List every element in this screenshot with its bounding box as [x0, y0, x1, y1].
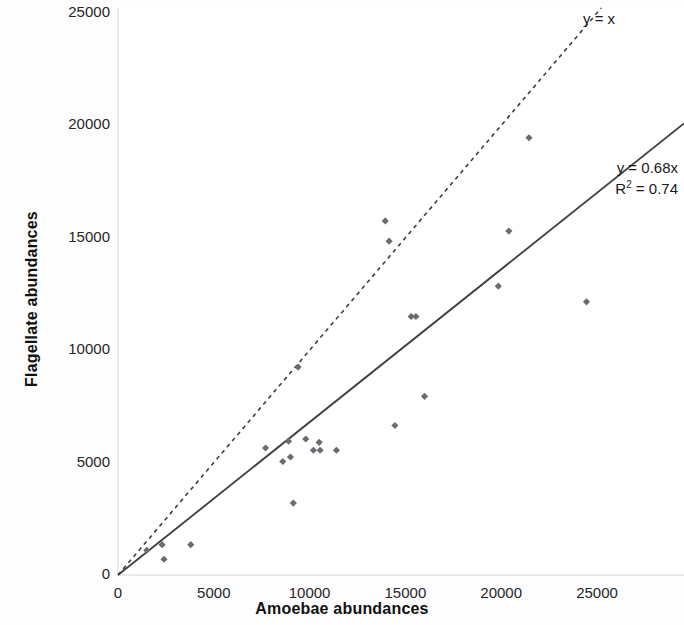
regression-equation-annotation: y = 0.68x R2 = 0.74	[480, 158, 678, 199]
x-tick-label: 5000	[174, 584, 254, 601]
r-squared-suffix: = 0.74	[632, 180, 678, 197]
regression-equation-label: y = 0.68x	[480, 158, 678, 178]
x-axis-title: Amoebae abundances	[0, 600, 684, 618]
r-squared-label: R2 = 0.74	[480, 178, 678, 199]
x-tick-label: 0	[78, 584, 158, 601]
y-tick-label: 15000	[40, 228, 110, 245]
plot-canvas	[0, 0, 684, 625]
y-tick-label: 5000	[40, 453, 110, 470]
x-tick-label: 10000	[270, 584, 350, 601]
scatter-plot-figure: 0 5000 10000 15000 20000 25000 0 5000 10…	[0, 0, 684, 625]
y-tick-label: 20000	[40, 115, 110, 132]
x-tick-label: 20000	[461, 584, 541, 601]
y-tick-label: 10000	[40, 340, 110, 357]
x-tick-label: 25000	[557, 584, 637, 601]
r-squared-prefix: R	[615, 180, 626, 197]
x-tick-label: 15000	[365, 584, 445, 601]
y-axis-title: Flagellate abundances	[23, 179, 41, 419]
plot-area-background	[118, 8, 684, 575]
identity-line-label: y = x	[583, 10, 615, 27]
y-tick-label: 0	[40, 565, 110, 582]
y-tick-label: 25000	[40, 3, 110, 20]
